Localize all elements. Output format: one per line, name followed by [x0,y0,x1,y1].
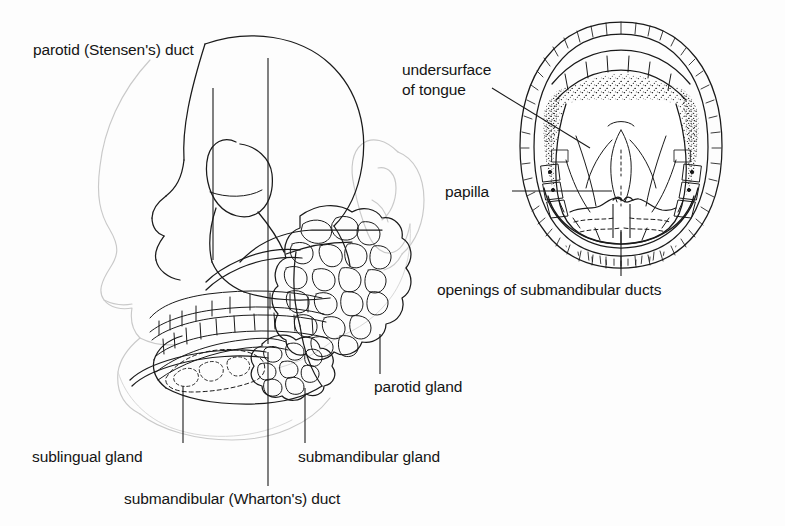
label-undersurface-line-2: of tongue [402,80,491,100]
submandibular-gland-shape [251,335,335,400]
label-submandibular-gland: submandibular gland [298,447,440,467]
skull-maxilla-zygoma [210,208,330,300]
label-parotid-gland: parotid gland [374,377,462,397]
sublingual-gland-lobules [174,357,250,387]
label-undersurface-of-tongue: undersurface of tongue [402,60,491,100]
label-papilla: papilla [445,182,489,202]
mandible [154,252,323,404]
parotid-gland-shape [272,206,411,360]
label-sublingual-gland: sublingual gland [32,447,142,467]
label-undersurface-line-1: undersurface [402,60,491,80]
soft-tissue-chin-outline [118,372,292,436]
anatomical-diagram: .ink{fill:none;stroke:#1a1a1a;stroke-wid… [0,0,785,526]
submandibular-whartons-duct [130,350,268,386]
skull-orbit [206,140,272,217]
skull-outline [152,44,205,280]
label-submandibular-whartons-duct: submandibular (Wharton's) duct [124,489,340,509]
parotid-gland-lobules [284,216,391,356]
skull-cranium [205,36,364,266]
label-parotid-stensens-duct: parotid (Stensen's) duct [33,40,194,60]
label-openings-of-submandibular-ducts: openings of submandibular ducts [437,280,661,300]
